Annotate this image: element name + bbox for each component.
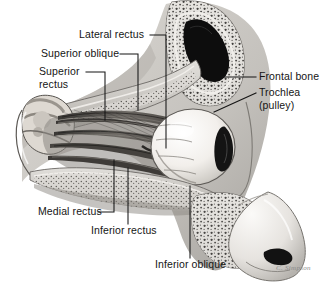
artist-signature: C. Simpson [276,264,311,272]
label-trochlea-line2: (pulley) [259,99,294,111]
label-superior-rectus-line2: rectus [39,78,68,90]
label-superior-rectus: Superior rectus [39,65,97,90]
anatomy-figure: Lateral rectus Superior oblique Superior… [0,0,336,289]
label-inferior-oblique: Inferior oblique [155,258,226,271]
label-trochlea-line1: Trochlea [259,86,300,98]
anatomy-illustration [0,0,336,289]
label-lateral-rectus: Lateral rectus [79,28,144,41]
label-inferior-rectus: Inferior rectus [91,224,157,237]
eyeball [151,109,235,185]
label-medial-rectus: Medial rectus [38,205,102,218]
label-superior-rectus-line1: Superior [39,65,80,77]
label-trochlea: Trochlea (pulley) [259,86,329,111]
label-superior-oblique: Superior oblique [41,47,119,60]
label-frontal-bone: Frontal bone [259,70,319,83]
